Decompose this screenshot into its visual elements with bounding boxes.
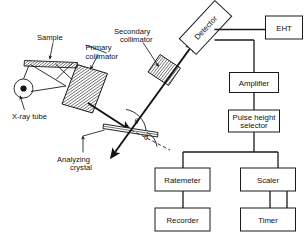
xray-tube-source	[14, 79, 33, 98]
diffracted-beam	[113, 45, 193, 155]
secondary-collimator-label-2: collimator	[120, 35, 153, 44]
sample-label: Sample	[37, 33, 63, 42]
theta-lower-label: θ	[144, 133, 148, 142]
scaler-label: Scaler	[257, 176, 280, 185]
primary-collimator-label-2: collimator	[86, 52, 119, 61]
xray-tube-label: X-ray tube	[12, 112, 47, 121]
pulse-height-selector-label-2: selector	[240, 121, 268, 130]
analyzing-crystal-label-2: crystal	[70, 163, 92, 172]
primary-collimator	[62, 65, 108, 114]
amplifier-label: Amplifier	[239, 79, 270, 88]
xray-spectrometer-figure: θ θ Detector	[0, 0, 307, 237]
eht-label: EHT	[276, 24, 292, 33]
theta-upper-label: θ	[135, 117, 139, 126]
recorder-label: Recorder	[166, 216, 198, 225]
secondary-collimator	[148, 55, 181, 86]
ratemeter-label: Ratemeter	[164, 176, 201, 185]
sample-slab	[24, 61, 78, 69]
timer-label: Timer	[258, 216, 278, 225]
